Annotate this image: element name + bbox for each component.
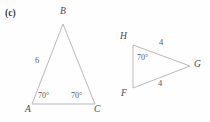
side-length-ab: 6 xyxy=(35,56,39,65)
geometry-canvas xyxy=(0,0,210,122)
figure-container: (c) B A C 6 70° 70° H G F 4 4 70° xyxy=(0,0,210,122)
part-label: (c) xyxy=(5,8,16,18)
angle-label-h: 70° xyxy=(137,54,148,62)
vertex-label-c: C xyxy=(94,105,100,115)
angle-label-a: 70° xyxy=(38,92,49,100)
vertex-label-g: G xyxy=(194,60,201,70)
vertex-label-b: B xyxy=(60,7,66,17)
angle-label-c: 70° xyxy=(71,92,82,100)
side-length-fg: 4 xyxy=(158,79,162,88)
vertex-label-f: F xyxy=(121,89,127,99)
side-length-hg: 4 xyxy=(159,38,163,47)
vertex-label-a: A xyxy=(25,105,31,115)
vertex-label-h: H xyxy=(120,32,127,42)
